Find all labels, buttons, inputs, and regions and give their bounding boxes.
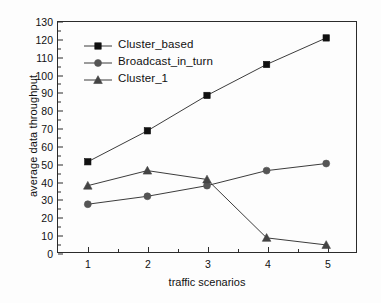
y-tick-label-20: 20: [41, 212, 53, 224]
x-tick-label-4: 4: [265, 258, 271, 270]
data-point-Broadcast_in_turn-2: [144, 193, 151, 200]
data-point-Cluster_based-1: [85, 159, 91, 165]
x-tick-label-2: 2: [145, 258, 151, 270]
legend-item-Cluster_1: Cluster_1: [83, 70, 213, 85]
legend-label: Cluster_1: [118, 72, 168, 84]
data-point-Cluster_based-5: [323, 35, 329, 41]
y-tick-label-90: 90: [41, 87, 53, 99]
legend-label: Cluster_based: [118, 38, 193, 50]
y-tick-label-70: 70: [41, 123, 53, 135]
y-tick-label-120: 120: [35, 34, 53, 46]
chart-figure: average data throughput 0102030405060708…: [0, 0, 381, 303]
y-tick-0: [58, 254, 63, 255]
y-tick-label-130: 130: [35, 16, 53, 28]
plot-area: 0102030405060708090100110120130 12345 Cl…: [57, 21, 357, 253]
y-tick-label-80: 80: [41, 105, 53, 117]
legend-marker-square-icon: [83, 38, 113, 50]
y-tick-label-100: 100: [35, 70, 53, 82]
x-tick-label-3: 3: [205, 258, 211, 270]
y-tick-label-30: 30: [41, 194, 53, 206]
data-point-Broadcast_in_turn-4: [263, 167, 270, 174]
legend-marker-circle-icon: [83, 55, 113, 67]
y-tick-label-110: 110: [36, 52, 53, 64]
legend-label: Broadcast_in_turn: [118, 55, 213, 67]
legend-item-Cluster_based: Cluster_based: [83, 36, 213, 51]
data-point-Cluster_based-4: [263, 61, 269, 67]
data-point-Broadcast_in_turn-1: [84, 201, 91, 208]
data-point-Cluster_based-3: [204, 92, 210, 98]
x-axis-title: traffic scenarios: [57, 276, 357, 288]
chart-legend: Cluster_basedBroadcast_in_turnCluster_1: [83, 36, 213, 85]
series-Cluster_1: [84, 166, 331, 248]
y-tick-label-0: 0: [47, 248, 53, 260]
data-point-Cluster_1-2: [143, 166, 152, 174]
x-tick-label-1: 1: [85, 258, 91, 270]
legend-item-Broadcast_in_turn: Broadcast_in_turn: [83, 53, 213, 68]
data-point-Cluster_based-2: [144, 128, 150, 134]
series-Broadcast_in_turn: [84, 160, 329, 208]
legend-marker-triangle-icon: [83, 72, 113, 84]
y-tick-label-50: 50: [41, 159, 53, 171]
y-tick-label-60: 60: [41, 141, 53, 153]
y-tick-label-10: 10: [41, 230, 53, 242]
y-tick-label-40: 40: [41, 177, 53, 189]
data-point-Broadcast_in_turn-5: [323, 160, 330, 167]
x-tick-label-5: 5: [325, 258, 331, 270]
